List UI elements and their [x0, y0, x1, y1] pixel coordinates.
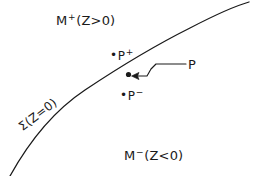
region-lower-superscript: −: [136, 147, 144, 157]
region-label-lower: M−(Z<0): [124, 149, 183, 162]
region-lower-condition: (Z<0): [144, 148, 183, 163]
point-plus-bullet-icon: •: [110, 48, 117, 62]
region-label-upper: M+(Z>0): [56, 14, 115, 27]
point-plus-superscript: +: [126, 47, 134, 57]
point-label-p-minus: •P−: [120, 90, 143, 102]
annotation-leader-line: [136, 64, 186, 76]
arrowhead-icon: [132, 72, 140, 79]
point-minus-superscript: −: [136, 87, 144, 97]
figure-canvas: M+(Z>0) M−(Z<0) •P+ •P− P Σ(Z=0): [0, 0, 260, 176]
region-upper-superscript: +: [68, 12, 76, 22]
point-plus-base: P: [118, 49, 125, 63]
point-minus-base: P: [128, 89, 135, 103]
point-p-marker-dot: [126, 72, 131, 77]
region-lower-base: M: [124, 148, 135, 163]
region-upper-condition: (Z>0): [76, 13, 115, 28]
region-upper-base: M: [56, 13, 67, 28]
point-label-p-plus: •P+: [110, 50, 133, 62]
point-minus-bullet-icon: •: [120, 88, 127, 102]
point-label-p: P: [188, 58, 196, 71]
